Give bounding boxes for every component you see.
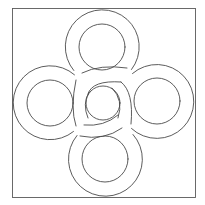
ring-left-inner — [27, 80, 73, 126]
knot-diagram: Interlaced four-ring knot — [0, 0, 205, 205]
ring-top — [65, 10, 139, 71]
band-left-outer — [73, 80, 76, 126]
ring-left-outer — [13, 66, 74, 140]
frame-border — [13, 9, 196, 198]
band-right-outer — [121, 82, 132, 124]
ring-right — [132, 64, 194, 138]
ring-top-outer — [65, 10, 139, 71]
ring-bottom-inner — [82, 136, 128, 182]
ring-bottom — [68, 135, 142, 197]
ring-right-inner — [134, 78, 180, 124]
ring-right-outer — [132, 64, 194, 138]
connector-bands — [73, 67, 132, 138]
ring-bottom-outer — [68, 135, 142, 197]
knot-svg — [0, 0, 205, 205]
ring-left — [13, 66, 74, 140]
ring-top-inner — [79, 24, 125, 70]
